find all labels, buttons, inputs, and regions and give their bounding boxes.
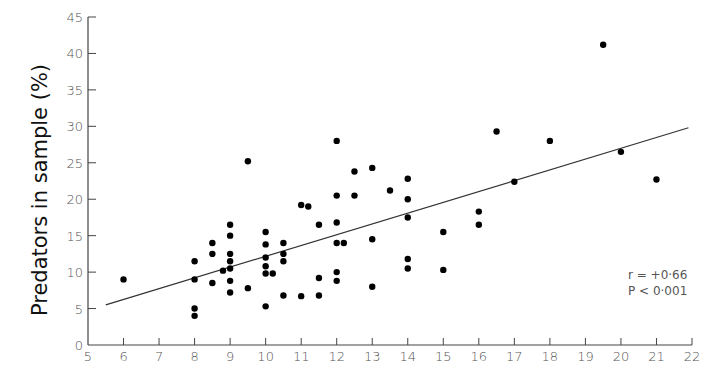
data-point [405, 214, 411, 220]
data-point [280, 240, 286, 246]
y-tick-label: 40 [66, 46, 83, 61]
data-point [191, 305, 197, 311]
data-point [334, 278, 340, 284]
data-point [270, 270, 276, 276]
y-axis-label: Predators in sample (%) [28, 64, 52, 316]
axes [88, 17, 692, 345]
y-tick-label: 15 [66, 229, 83, 244]
y-tick-label: 0 [75, 338, 83, 353]
data-point [245, 285, 251, 291]
x-tick-label: 11 [293, 349, 310, 364]
x-tick-label: 5 [84, 349, 92, 364]
y-tick-label: 10 [66, 265, 83, 280]
scatter-chart: 5678910111213141516171819202122051015202… [0, 0, 716, 379]
x-tick-label: 15 [435, 349, 452, 364]
data-point [227, 265, 233, 271]
x-tick-label: 18 [542, 349, 559, 364]
data-point [245, 158, 251, 164]
data-point [511, 179, 517, 185]
y-tick-label: 30 [66, 119, 83, 134]
data-point [262, 263, 268, 269]
data-point [227, 289, 233, 295]
x-tick-label: 17 [506, 349, 523, 364]
data-point [493, 128, 499, 134]
data-point [209, 251, 215, 257]
data-point [316, 292, 322, 298]
x-tick-label: 20 [613, 349, 630, 364]
data-point [280, 251, 286, 257]
data-point [440, 267, 446, 273]
data-point [547, 138, 553, 144]
data-point [405, 176, 411, 182]
data-point [405, 256, 411, 262]
data-point [262, 229, 268, 235]
data-point [405, 265, 411, 271]
x-tick-label: 16 [471, 349, 488, 364]
data-point [618, 149, 624, 155]
data-point [600, 41, 606, 47]
data-point [262, 270, 268, 276]
data-point [387, 187, 393, 193]
data-point [262, 241, 268, 247]
data-point [334, 138, 340, 144]
x-tick-label: 21 [648, 349, 665, 364]
data-point [476, 208, 482, 214]
data-point [298, 293, 304, 299]
data-point [334, 219, 340, 225]
data-point [191, 313, 197, 319]
y-tick-label: 5 [75, 302, 83, 317]
data-point [351, 168, 357, 174]
data-point [280, 258, 286, 264]
data-point [334, 269, 340, 275]
x-tick-label: 6 [119, 349, 127, 364]
x-tick-label: 8 [190, 349, 198, 364]
data-point [120, 276, 126, 282]
x-tick-label: 14 [399, 349, 416, 364]
data-point [191, 258, 197, 264]
data-point [298, 202, 304, 208]
y-tick-label: 35 [66, 83, 83, 98]
data-point [220, 267, 226, 273]
data-point [369, 165, 375, 171]
data-point [209, 240, 215, 246]
x-tick-label: 12 [328, 349, 345, 364]
data-point [227, 258, 233, 264]
correlation-annotation: r = +0·66 [628, 268, 687, 282]
x-tick-label: 7 [155, 349, 163, 364]
data-point [334, 240, 340, 246]
data-point [341, 240, 347, 246]
data-point [280, 292, 286, 298]
x-tick-label: 22 [684, 349, 701, 364]
data-point [227, 232, 233, 238]
x-tick-label: 10 [257, 349, 274, 364]
data-point [227, 278, 233, 284]
x-tick-label: 9 [226, 349, 234, 364]
data-point [262, 303, 268, 309]
data-point [369, 236, 375, 242]
data-point [476, 222, 482, 228]
x-tick-label: 13 [364, 349, 381, 364]
y-tick-label: 20 [66, 192, 83, 207]
y-tick-label: 25 [66, 156, 83, 171]
data-point [405, 196, 411, 202]
data-point [316, 222, 322, 228]
data-point [191, 276, 197, 282]
data-point [369, 283, 375, 289]
data-point [262, 254, 268, 260]
data-point [351, 192, 357, 198]
data-point [227, 251, 233, 257]
data-point [227, 222, 233, 228]
data-point [316, 275, 322, 281]
data-point [305, 203, 311, 209]
y-tick-label: 45 [66, 10, 83, 25]
x-tick-label: 19 [577, 349, 594, 364]
data-point [440, 229, 446, 235]
p-value-annotation: P < 0·001 [628, 284, 687, 298]
data-point [209, 280, 215, 286]
data-point [653, 176, 659, 182]
data-point [334, 192, 340, 198]
ticks: 5678910111213141516171819202122051015202… [66, 10, 700, 364]
data-points [120, 41, 659, 319]
